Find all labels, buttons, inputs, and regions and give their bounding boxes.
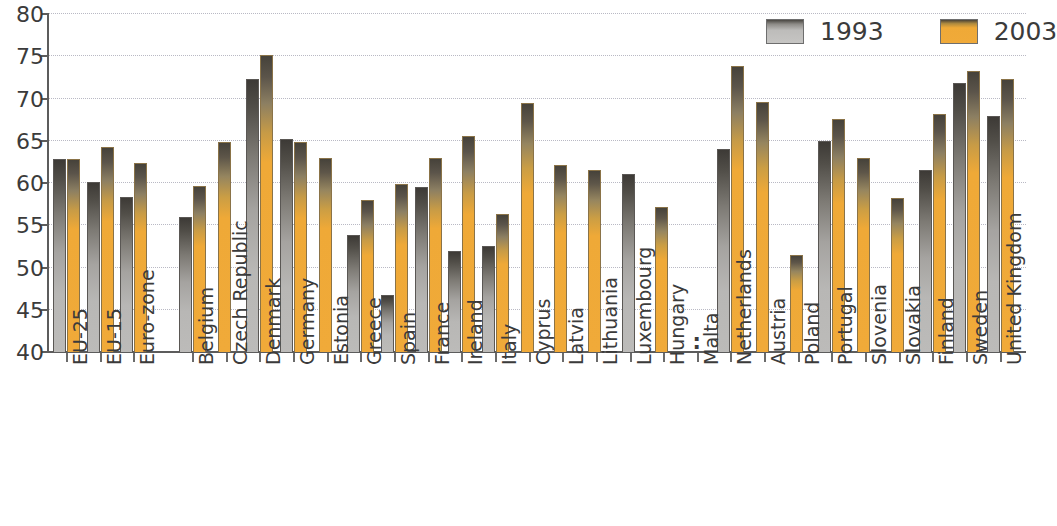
y-tick-label: 80 [0,2,44,27]
x-axis-label-luxembourg: Luxembourg [620,362,638,522]
bar-group [381,14,415,352]
legend-label-1993: 1993 [820,17,884,46]
y-tick-label: 50 [0,256,44,281]
x-tick-mark [630,353,632,362]
x-axis-label-united-kingdom: United Kingdom [990,362,1008,522]
x-axis-label-germany: Germany [283,362,301,522]
x-axis-label-cyprus: Cyprus [519,362,537,522]
x-tick-mark [327,353,329,362]
x-axis-label-latvia: Latvia [552,362,570,522]
x-axis-label-spain: Spain [384,362,402,522]
bar-group [482,14,516,352]
legend-swatch-2003 [940,19,978,44]
x-axis-label-malta: Malta [687,362,705,522]
x-axis-label-eu-25: EU-25 [56,362,74,522]
y-tick-label: 70 [0,87,44,112]
x-tick-mark [663,353,665,362]
y-tick-label: 60 [0,171,44,196]
x-tick-mark [133,353,135,362]
y-tick-label: 40 [0,340,44,365]
bar-group [87,14,121,352]
y-tick-label: 55 [0,213,44,238]
x-tick-mark [865,353,867,362]
chart-legend: 19932003 [766,17,1057,46]
x-axis-label-sweden: Sweden [956,362,974,522]
x-tick-mark [495,353,497,362]
x-axis-label-finland: Finland [922,362,940,522]
x-axis-label-czech-republic: Czech Republic [216,362,234,522]
x-tick-mark [899,353,901,362]
x-axis-label-hungary: Hungary [653,362,671,522]
x-tick-mark [461,353,463,362]
x-tick-mark [596,353,598,362]
y-tick-label: 75 [0,44,44,69]
x-tick-mark [966,353,968,362]
x-axis-label-slovenia: Slovenia [855,362,873,522]
x-axis-label-denmark: Denmark [249,362,267,522]
legend-item-1993: 1993 [766,17,884,46]
x-tick-mark [394,353,396,362]
x-axis-label-austria: Austria [754,362,772,522]
y-tick-label: 45 [0,298,44,323]
x-axis-label-slovakia: Slovakia [889,362,907,522]
x-tick-mark [66,353,68,362]
x-axis-label-euro-zone: Euro-zone [123,362,141,522]
x-axis-label-eu-15: EU-15 [90,362,108,522]
x-tick-mark [697,353,699,362]
x-tick-mark [293,353,295,362]
x-axis-label-portugal: Portugal [821,362,839,522]
bar-group [53,14,87,352]
x-tick-mark [932,353,934,362]
legend-item-2003: 2003 [940,17,1057,46]
bar-1993 [179,217,192,352]
x-tick-mark [764,353,766,362]
x-tick-mark [100,353,102,362]
x-tick-mark [529,353,531,362]
legend-swatch-1993 [766,19,804,44]
bar-1993 [53,159,66,353]
x-axis-label-greece: Greece [350,362,368,522]
x-tick-mark [798,353,800,362]
x-axis-label-italy: Italy [485,362,503,522]
bar-group [549,14,583,352]
x-axis-label-poland: Poland [788,362,806,522]
x-axis-label-lithuania: Lithuania [586,362,604,522]
x-axis-label-netherlands: Netherlands [720,362,738,522]
x-tick-mark [1000,353,1002,362]
x-tick-mark [428,353,430,362]
x-tick-mark [226,353,228,362]
x-axis-label-estonia: Estonia [317,362,335,522]
x-tick-mark [562,353,564,362]
x-axis-label-belgium: Belgium [182,362,200,522]
bar-group: : [684,14,718,352]
x-tick-mark [192,353,194,362]
x-axis-label-france: France [418,362,436,522]
x-axis-label-ireland: Ireland [451,362,469,522]
y-tick-label: 65 [0,129,44,154]
legend-label-2003: 2003 [994,17,1057,46]
